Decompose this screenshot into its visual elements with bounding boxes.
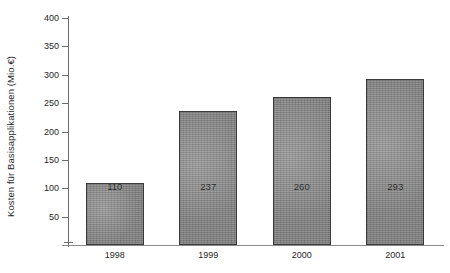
y-axis-tick-row: 200: [0, 126, 68, 138]
bar[interactable]: 110: [86, 183, 144, 245]
x-axis-category-label: 1998: [68, 250, 162, 260]
y-axis-tick-row: 100: [0, 182, 68, 194]
bar-chart: Kosten für Basisapplikationen (Mio.€) 40…: [0, 0, 450, 273]
y-axis-tick-label: 100: [44, 182, 59, 194]
y-axis-tick-row: 50: [0, 211, 68, 223]
bar-value-label: 237: [180, 181, 236, 192]
y-axis-tick-row: 400: [0, 12, 68, 24]
y-axis-tick-row: 150: [0, 154, 68, 166]
bar[interactable]: 260: [273, 97, 331, 245]
x-axis-category-label: 2001: [349, 250, 443, 260]
bar-value-label: 293: [367, 181, 423, 192]
y-axis-tick-label: 350: [44, 40, 59, 52]
x-axis-category-label: 2000: [255, 250, 349, 260]
x-axis-line: [62, 245, 444, 246]
y-axis-tick-row: 350: [0, 40, 68, 52]
y-axis-tick-label: 150: [44, 154, 59, 166]
bar-value-label: 260: [274, 181, 330, 192]
y-axis-tick-label: 400: [44, 12, 59, 24]
x-axis-category-label: 1999: [162, 250, 256, 260]
bar-value-label: 110: [87, 183, 143, 192]
y-axis-tick-label: 250: [44, 97, 59, 109]
y-axis-tick-row: 250: [0, 97, 68, 109]
y-axis-tick-label: 200: [44, 126, 59, 138]
bar[interactable]: 293: [366, 79, 424, 245]
bar[interactable]: 237: [179, 111, 237, 245]
y-axis-tick-label: 300: [44, 69, 59, 81]
y-axis-tick-label: 50: [49, 211, 59, 223]
plot-area: 110237260293: [68, 18, 442, 245]
y-axis-tick-row: 300: [0, 69, 68, 81]
